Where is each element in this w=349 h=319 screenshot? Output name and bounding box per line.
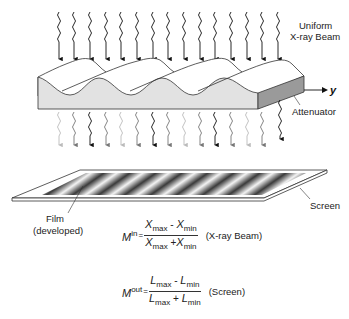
screen-leader-line	[300, 188, 310, 199]
film-pattern	[42, 173, 306, 195]
m-out-sup: out	[131, 285, 142, 294]
incident-arrow	[277, 12, 280, 59]
incident-arrow	[246, 12, 249, 59]
screen-plate	[12, 170, 327, 201]
incident-arrow	[73, 12, 76, 59]
transmitted-arrow	[167, 112, 170, 145]
incident-arrow	[89, 12, 92, 59]
transmitted-arrow	[199, 112, 202, 145]
incident-arrow	[136, 12, 139, 59]
transmitted-arrow	[214, 112, 217, 145]
incident-arrow	[230, 12, 233, 59]
m-out-label: (Screen)	[209, 286, 245, 297]
m-in-sup: in	[131, 229, 137, 238]
modulation-in-equation: Min=Xmax - XminXmax +Xmin(X-ray Beam)	[122, 218, 262, 253]
equals-sign: =	[138, 231, 143, 240]
incident-arrow	[120, 12, 123, 59]
incident-arrow	[214, 12, 217, 59]
transmitted-arrow	[261, 112, 264, 145]
incident-arrow	[105, 12, 108, 59]
m-in-var: M	[122, 231, 131, 243]
transmitted-arrow	[183, 112, 186, 145]
axis-y-label: y	[329, 84, 337, 96]
m-out-denominator: Lmax + Lmin	[149, 292, 201, 309]
modulation-diagram: y Attenuator Uniform X-ray Beam Screen F…	[0, 0, 349, 319]
m-out-fraction: Lmax - LminLmax + Lmin	[149, 274, 201, 309]
transmitted-arrow	[230, 112, 233, 145]
incident-arrow	[183, 12, 186, 59]
y-axis: y	[304, 84, 337, 96]
transmitted-arrow	[58, 112, 61, 145]
transmitted-arrow	[136, 112, 139, 145]
transmitted-arrow	[73, 112, 76, 145]
beam-label-line2: X-ray Beam	[290, 31, 340, 42]
transmitted-arrow	[246, 112, 249, 145]
transmitted-arrow	[105, 112, 108, 145]
screen-label: Screen	[310, 200, 340, 211]
transmitted-arrow	[120, 112, 123, 145]
m-out-var: M	[122, 287, 131, 299]
incident-xray-arrows	[58, 12, 280, 59]
equals-sign: =	[143, 287, 148, 296]
attenuator-block	[38, 58, 304, 109]
beam-label-line1: Uniform	[299, 20, 332, 31]
m-in-fraction: Xmax - XminXmax +Xmin	[144, 218, 198, 253]
incident-arrow	[167, 12, 170, 59]
m-out-numerator: Lmax - Lmin	[149, 274, 201, 292]
film-label-line2: (developed)	[33, 225, 83, 236]
transmitted-arrow	[279, 100, 282, 139]
incident-arrow	[261, 12, 264, 59]
incident-arrow	[152, 12, 155, 59]
attenuator-label: Attenuator	[292, 106, 336, 117]
m-in-numerator: Xmax - Xmin	[144, 218, 198, 236]
m-in-label: (X-ray Beam)	[206, 230, 262, 241]
incident-arrow	[58, 12, 61, 59]
attenuator-leader-line	[294, 96, 300, 105]
incident-arrow	[199, 12, 202, 59]
film-label-line1: Film	[46, 213, 64, 224]
transmitted-arrow	[89, 112, 92, 145]
m-in-denominator: Xmax +Xmin	[144, 236, 198, 253]
transmitted-arrow	[152, 112, 155, 145]
modulation-out-equation: Mout=Lmax - LminLmax + Lmin(Screen)	[122, 274, 245, 309]
